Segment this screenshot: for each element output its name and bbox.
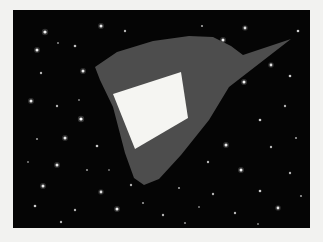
star	[34, 205, 37, 208]
star	[30, 100, 33, 103]
star	[201, 25, 203, 27]
star	[257, 223, 259, 225]
star	[244, 27, 247, 30]
star	[56, 105, 58, 107]
star	[259, 119, 262, 122]
star	[270, 146, 272, 148]
star	[100, 25, 103, 28]
star	[40, 72, 42, 74]
star	[295, 137, 297, 139]
star	[277, 207, 280, 210]
star	[43, 30, 46, 33]
star	[240, 169, 243, 172]
star	[234, 212, 236, 214]
star	[82, 70, 85, 73]
star	[222, 39, 225, 42]
star	[198, 206, 200, 208]
space-scene	[13, 10, 310, 228]
star	[74, 209, 76, 211]
star	[289, 75, 292, 78]
star	[284, 105, 286, 107]
star	[96, 145, 99, 148]
star	[289, 172, 291, 174]
star	[300, 195, 302, 197]
star	[116, 208, 119, 211]
star	[78, 99, 80, 101]
star	[79, 117, 82, 120]
star	[259, 190, 262, 193]
star	[184, 222, 186, 224]
star	[60, 221, 62, 223]
star	[297, 30, 300, 33]
star	[130, 184, 132, 186]
star	[243, 81, 246, 84]
artwork-stage: Spaceship in starfield spaceship outer s…	[0, 0, 323, 242]
star	[108, 169, 110, 171]
star	[212, 193, 214, 195]
star	[142, 202, 144, 204]
star	[86, 169, 88, 171]
star	[42, 185, 45, 188]
star	[100, 191, 103, 194]
star	[74, 45, 77, 48]
star	[57, 42, 59, 44]
star	[162, 214, 164, 216]
star	[270, 64, 273, 67]
star	[124, 30, 126, 32]
star	[225, 144, 228, 147]
star	[56, 164, 59, 167]
scene-canvas	[13, 10, 310, 228]
star	[27, 161, 29, 163]
star	[207, 161, 209, 163]
star	[178, 187, 180, 189]
star	[36, 49, 39, 52]
star	[36, 138, 38, 140]
star	[64, 137, 67, 140]
